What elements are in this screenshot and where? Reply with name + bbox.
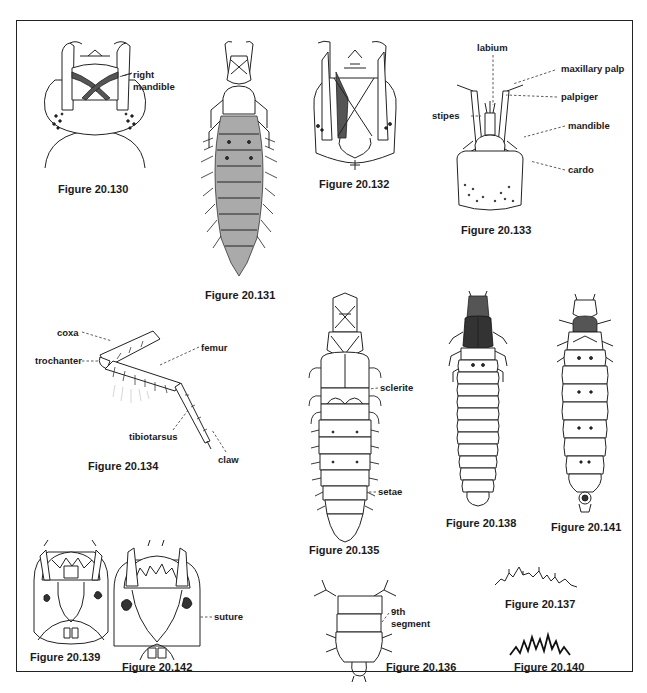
label-sclerite: sclerite [380, 382, 413, 393]
label-claw: claw [218, 454, 239, 465]
figure-20-140-caption: Figure 20.140 [514, 661, 584, 673]
label-coxa: coxa [57, 327, 79, 338]
figure-20-142-caption: Figure 20.142 [122, 661, 192, 673]
label-cardo: cardo [568, 164, 594, 175]
figure-20-138-caption: Figure 20.138 [446, 517, 516, 529]
label-palpiger: palpiger [561, 91, 598, 102]
label-labium: labium [477, 42, 508, 53]
label-9th-segment-line1: 9th [391, 606, 405, 617]
figure-20-137-caption: Figure 20.137 [505, 598, 575, 610]
label-mandible: mandible [568, 120, 610, 131]
label-femur: femur [201, 342, 227, 353]
label-maxillary-palp: maxillary palp [561, 63, 624, 74]
figure-20-133-caption: Figure 20.133 [461, 224, 531, 236]
label-trochanter: trochanter [35, 355, 82, 366]
figure-20-135-caption: Figure 20.135 [309, 544, 379, 556]
label-setae: setae [378, 486, 402, 497]
figure-20-140-drawing [508, 633, 572, 659]
label-9th-segment-line2: segment [391, 618, 430, 629]
figure-20-138-drawing [443, 290, 513, 512]
figure-20-141-caption: Figure 20.141 [551, 521, 621, 533]
figure-20-135-drawing [305, 292, 385, 544]
label-suture: suture [214, 611, 243, 622]
figure-20-141-drawing [553, 292, 617, 517]
figure-20-137-drawing [493, 565, 583, 589]
figure-20-139-caption: Figure 20.139 [30, 651, 100, 663]
figure-20-136-caption: Figure 20.136 [386, 661, 456, 673]
figure-20-139-drawing [30, 540, 112, 648]
figure-20-134-caption: Figure 20.134 [88, 460, 158, 472]
label-tibiotarsus: tibiotarsus [129, 431, 178, 442]
label-stipes: stipes [432, 110, 459, 121]
figure-20-142-drawing [110, 540, 205, 660]
